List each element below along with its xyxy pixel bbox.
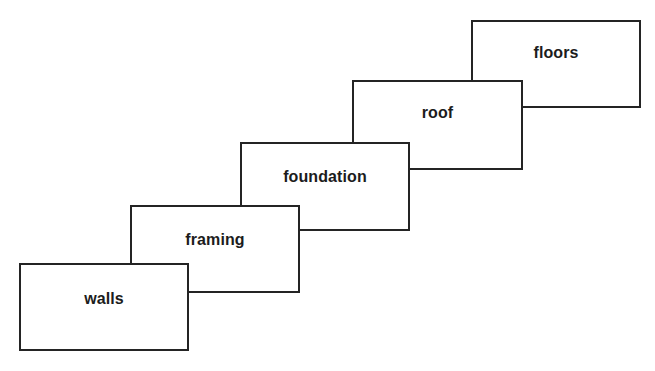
node-label: roof bbox=[422, 105, 454, 121]
node-label: foundation bbox=[283, 169, 367, 185]
node-label: floors bbox=[533, 45, 578, 61]
node-label: framing bbox=[185, 232, 244, 248]
diagram-node-walls[interactable]: walls bbox=[19, 263, 189, 351]
diagram-canvas: floors roof foundation framing walls bbox=[0, 0, 655, 371]
node-label: walls bbox=[84, 291, 124, 307]
